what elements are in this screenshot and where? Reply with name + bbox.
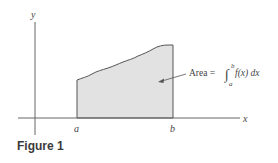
y-axis-label: y (30, 9, 36, 20)
area-formula-annotation: Area = ∫ b a f(x) dx (189, 62, 260, 88)
shaded-area-region (77, 45, 173, 118)
lower-limit: a (229, 80, 233, 88)
tick-label-a: a (74, 123, 79, 134)
area-prefix: Area = (189, 68, 218, 78)
x-axis-label: x (242, 113, 248, 124)
tick-label-b: b (170, 123, 175, 134)
integrand: f(x) dx (235, 68, 260, 79)
figure-caption: Figure 1 (17, 139, 64, 153)
